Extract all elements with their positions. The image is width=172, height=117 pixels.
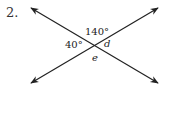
angle-label-140: 140° [85, 27, 109, 37]
intersecting-lines-diagram [0, 0, 172, 117]
angle-label-40: 40° [65, 40, 83, 50]
angle-label-d: d [104, 39, 110, 49]
angle-label-e: e [92, 53, 98, 63]
